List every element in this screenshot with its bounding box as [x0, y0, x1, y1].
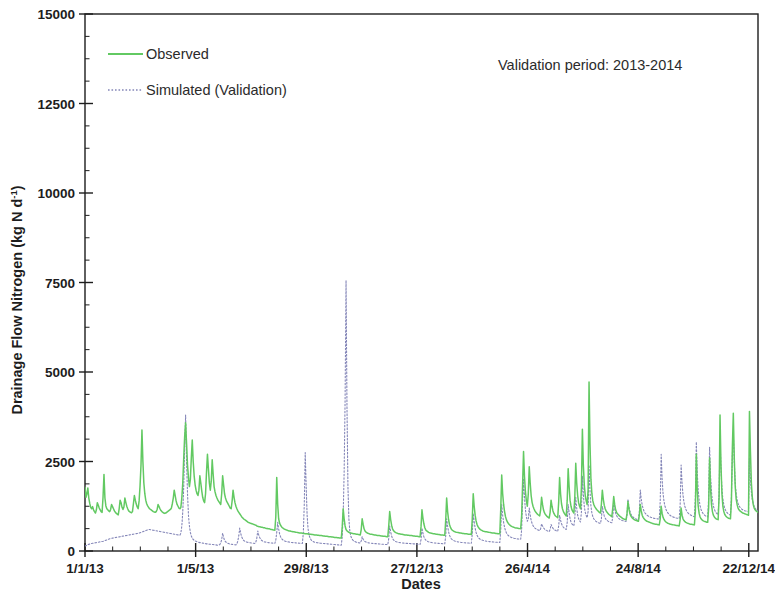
y-tick-label: 10000 — [37, 186, 75, 201]
x-tick-label: 27/12/13 — [391, 561, 444, 576]
y-tick-label: 7500 — [45, 276, 75, 291]
y-tick-label: 15000 — [37, 7, 75, 22]
y-tick-label: 12500 — [37, 97, 75, 112]
x-tick-label: 1/5/13 — [177, 561, 215, 576]
x-tick-label: 22/12/14 — [722, 561, 775, 576]
chart-svg: 0250050007500100001250015000 1/1/131/5/1… — [0, 0, 775, 593]
y-axis-title-text: Drainage Flow Nitrogen (kg N d — [9, 199, 25, 415]
y-tick-label: 5000 — [45, 365, 75, 380]
y-tick-label: 2500 — [45, 455, 75, 470]
legend-label-observed: Observed — [146, 46, 209, 62]
x-tick-label: 1/1/13 — [66, 561, 104, 576]
x-tick-label: 29/8/13 — [284, 561, 330, 576]
y-tick-label: 0 — [67, 544, 75, 559]
x-tick-label: 24/8/14 — [616, 561, 662, 576]
svg-text:Drainage Flow Nitrogen (kg N d: Drainage Flow Nitrogen (kg N d-1) — [8, 185, 25, 414]
validation-period-annotation: Validation period: 2013-2014 — [498, 57, 682, 73]
legend-label-simulated: Simulated (Validation) — [146, 82, 287, 98]
chart-figure: 0250050007500100001250015000 1/1/131/5/1… — [0, 0, 775, 593]
y-axis-title-tail: ) — [9, 185, 25, 190]
x-axis-title: Dates — [401, 576, 441, 592]
x-tick-label: 26/4/14 — [505, 561, 551, 576]
y-axis-title: Drainage Flow Nitrogen (kg N d-1) — [8, 185, 25, 414]
